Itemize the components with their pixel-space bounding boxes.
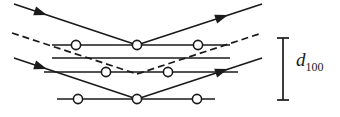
interplanar-spacing-label: d100 (296, 50, 324, 73)
bragg-diffraction-figure: d100 (0, 0, 340, 117)
solid-ray-upper (14, 4, 262, 45)
dashed-ray (12, 33, 262, 74)
arrowhead-incoming-upper (33, 7, 48, 20)
atom-circle (73, 94, 82, 103)
atom-circle (192, 94, 201, 103)
atom-circle (163, 67, 172, 76)
solid-ray-upper-incoming (14, 4, 137, 45)
interplanar-spacing-dimension-bar (277, 38, 289, 100)
atom-circle (132, 94, 141, 103)
arrowhead-outgoing-upper (214, 11, 229, 24)
solid-ray-lower-outgoing (137, 58, 262, 99)
spacing-symbol: d (296, 49, 306, 70)
solid-ray-lower (14, 58, 262, 99)
solid-ray-lower-incoming (14, 58, 137, 99)
arrowhead-outgoing-lower (214, 65, 229, 78)
spacing-subscript: 100 (306, 60, 324, 74)
atom-circle (71, 40, 80, 49)
atom-circle (132, 40, 141, 49)
atom-circle (193, 40, 202, 49)
atom-circle (101, 67, 110, 76)
bragg-diagram-canvas (0, 0, 340, 117)
